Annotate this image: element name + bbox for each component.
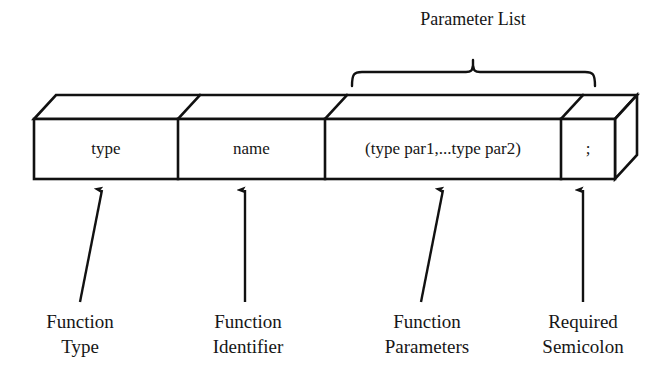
callout-required-semicolon-line2: Semicolon xyxy=(518,335,648,360)
arrow-function-parameters xyxy=(421,190,443,302)
callout-function-parameters-line2: Parameters xyxy=(362,335,492,360)
callout-required-semicolon: Required Semicolon xyxy=(518,310,648,359)
callout-function-identifier-line1: Function xyxy=(185,310,311,335)
box-cell-semicolon: ; xyxy=(561,139,615,159)
diagram-canvas: Parameter List type name (type par1,...t… xyxy=(0,0,668,378)
callout-arrows xyxy=(80,190,583,302)
callout-function-parameters: Function Parameters xyxy=(362,310,492,359)
callout-function-identifier: Function Identifier xyxy=(185,310,311,359)
callout-function-type-line1: Function xyxy=(20,310,140,335)
callout-function-type-line2: Type xyxy=(20,335,140,360)
arrow-function-type xyxy=(80,190,102,302)
box-cell-name: name xyxy=(178,139,325,159)
parameter-list-label: Parameter List xyxy=(403,8,543,32)
parameter-list-line2: List xyxy=(498,9,526,29)
callout-function-identifier-line2: Identifier xyxy=(185,335,311,360)
box-cell-parameters: (type par1,...type par2) xyxy=(325,139,561,159)
parameter-list-brace xyxy=(352,60,595,86)
callout-function-type: Function Type xyxy=(20,310,140,359)
box-cell-type: type xyxy=(34,139,178,159)
callout-function-parameters-line1: Function xyxy=(362,310,492,335)
callout-required-semicolon-line1: Required xyxy=(518,310,648,335)
prototype-box xyxy=(34,95,637,179)
parameter-list-line1: Parameter xyxy=(420,9,493,29)
